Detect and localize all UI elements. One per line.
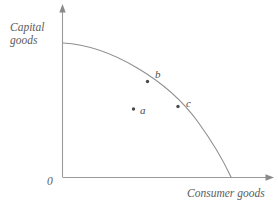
ppf-figure: Capital goods Consumer goods 0 b c a	[0, 0, 278, 207]
y-axis-label-line1: Capital	[10, 21, 45, 34]
ppf-curve	[63, 43, 231, 177]
data-point-a	[132, 107, 135, 110]
x-axis-label: Consumer goods	[187, 187, 265, 200]
ppf-chart-canvas: Capital goods Consumer goods 0 b c a	[0, 0, 278, 207]
data-point-c-label: c	[186, 97, 191, 109]
data-point-a-label: a	[140, 104, 146, 116]
data-point-b	[146, 80, 149, 83]
origin-label: 0	[47, 175, 53, 187]
data-point-b-label: b	[155, 68, 161, 80]
data-point-c	[176, 105, 179, 108]
x-axis-arrow-icon	[266, 174, 275, 180]
y-axis-label-line2: goods	[10, 34, 38, 47]
y-axis-arrow-icon	[59, 4, 65, 13]
